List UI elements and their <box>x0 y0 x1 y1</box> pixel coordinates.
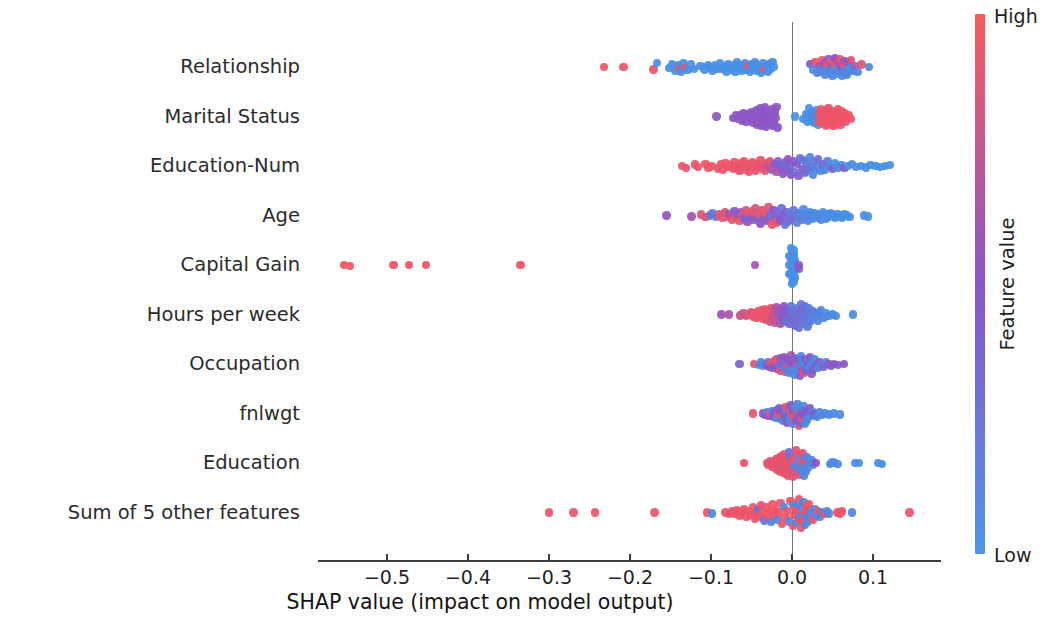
beeswarm-dot <box>682 164 690 172</box>
beeswarm-dot <box>848 508 856 516</box>
beeswarm-dot <box>773 123 781 131</box>
beeswarm-dot <box>865 63 873 71</box>
beeswarm-dot <box>725 310 733 318</box>
beeswarm-dot <box>840 360 848 368</box>
colorbar-low-label: Low <box>994 544 1031 566</box>
beeswarm-dot <box>772 103 780 111</box>
beeswarm-dot <box>740 459 748 467</box>
beeswarm-dot <box>545 508 553 516</box>
x-tick-mark <box>386 554 387 561</box>
x-tick-mark <box>467 554 468 561</box>
x-tick-label: 0.0 <box>777 566 807 588</box>
beeswarm-dot <box>805 104 813 112</box>
beeswarm-dot <box>886 161 894 169</box>
beeswarm-dot <box>687 212 695 220</box>
plot-area <box>318 28 941 553</box>
feature-label-marital-status: Marital Status <box>0 107 300 127</box>
beeswarm-dot <box>591 508 599 516</box>
beeswarm-dot <box>516 261 524 269</box>
x-tick-label: −0.2 <box>607 566 653 588</box>
feature-label-occupation: Occupation <box>0 354 300 374</box>
feature-label-fnlwgt: fnlwgt <box>0 404 300 424</box>
beeswarm-dot <box>422 261 430 269</box>
x-tick-mark <box>791 554 792 561</box>
feature-label-hours-per-week: Hours per week <box>0 305 300 325</box>
beeswarm-dot <box>811 459 819 467</box>
x-tick-label: −0.3 <box>526 566 572 588</box>
feature-label-education-num: Education-Num <box>0 156 300 176</box>
beeswarm-dot <box>836 410 844 418</box>
shap-beeswarm-figure: RelationshipMarital StatusEducation-NumA… <box>0 0 1052 622</box>
colorbar-gradient <box>975 14 985 554</box>
x-tick-label: −0.4 <box>445 566 491 588</box>
beeswarm-dot <box>751 261 759 269</box>
colorbar-high-label: High <box>994 5 1038 27</box>
beeswarm-dot <box>653 59 661 67</box>
beeswarm-dot <box>833 460 841 468</box>
x-tick-label: −0.1 <box>688 566 734 588</box>
x-tick-mark <box>710 554 711 561</box>
beeswarm-dot <box>650 508 658 516</box>
beeswarm-dot <box>749 409 757 417</box>
beeswarm-dot <box>662 211 670 219</box>
beeswarm-dot <box>864 212 872 220</box>
beeswarm-dot <box>708 509 716 517</box>
feature-label-age: Age <box>0 206 300 226</box>
beeswarm-dot <box>791 273 799 281</box>
beeswarm-dot <box>405 261 413 269</box>
beeswarm-dot <box>832 312 840 320</box>
beeswarm-dot <box>855 459 863 467</box>
beeswarm-dot <box>847 115 855 123</box>
beeswarm-dot <box>770 63 778 71</box>
beeswarm-dot <box>849 310 857 318</box>
x-tick-mark <box>872 554 873 561</box>
feature-label-sum-of-5-other-features: Sum of 5 other features <box>0 503 300 523</box>
x-tick-label: −0.5 <box>364 566 410 588</box>
x-tick-mark <box>548 554 549 561</box>
feature-label-capital-gain: Capital Gain <box>0 255 300 275</box>
beeswarm-dot <box>346 262 354 270</box>
colorbar-title: Feature value <box>996 217 1019 350</box>
beeswarm-dot <box>772 114 780 122</box>
x-tick-label: 0.1 <box>858 566 888 588</box>
beeswarm-dot <box>619 63 627 71</box>
feature-label-education: Education <box>0 453 300 473</box>
beeswarm-dot <box>569 508 577 516</box>
beeswarm-dot <box>838 507 846 515</box>
x-tick-mark <box>629 554 630 561</box>
beeswarm-dot <box>735 360 743 368</box>
beeswarm-dot <box>795 264 803 272</box>
x-axis-title: SHAP value (impact on model output) <box>0 590 960 614</box>
beeswarm-dot <box>712 112 720 120</box>
beeswarm-dot <box>600 63 608 71</box>
beeswarm-dot <box>853 68 861 76</box>
beeswarm-dot <box>845 213 853 221</box>
beeswarm-dot <box>905 508 913 516</box>
beeswarm-dot <box>878 460 886 468</box>
beeswarm-dot <box>389 261 397 269</box>
feature-label-relationship: Relationship <box>0 57 300 77</box>
